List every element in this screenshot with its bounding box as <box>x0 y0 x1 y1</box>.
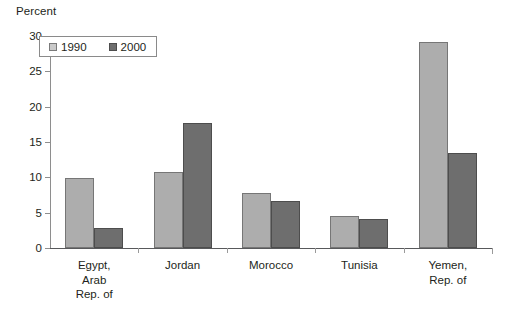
y-axis-tick <box>45 142 50 143</box>
y-axis-tick-label: 0 <box>36 242 42 254</box>
legend-swatch-icon-1990 <box>49 43 57 51</box>
bar-1990-yemen-rep-of <box>419 42 448 248</box>
legend-swatch-icon-2000 <box>109 43 117 51</box>
x-axis-tick <box>315 248 316 253</box>
bar-2000-jordan <box>183 123 212 248</box>
bar-2000-morocco <box>271 201 300 248</box>
x-axis-line <box>50 248 492 249</box>
x-axis-category-label: Morocco <box>227 258 315 273</box>
x-axis-tick <box>227 248 228 253</box>
y-axis-title: Percent <box>16 4 56 18</box>
y-axis-tick <box>45 177 50 178</box>
x-axis-category-label: Yemen, Rep. of <box>404 258 492 287</box>
y-axis-tick <box>45 248 50 249</box>
bar-2000-tunisia <box>359 219 388 248</box>
legend-label-2000: 2000 <box>121 41 147 53</box>
bar-1990-egypt-arab-rep-of <box>65 178 94 248</box>
bar-2000-yemen-rep-of <box>448 153 477 248</box>
x-axis-category-label: Tunisia <box>315 258 403 273</box>
plot-area: 051015202530 Egypt, Arab Rep. ofJordanMo… <box>50 36 492 248</box>
bar-chart: Percent 051015202530 Egypt, Arab Rep. of… <box>0 0 516 311</box>
y-axis-tick <box>45 107 50 108</box>
chart-legend: 1990 2000 <box>39 36 157 57</box>
bar-1990-morocco <box>242 193 271 248</box>
y-axis-tick-label: 20 <box>29 101 42 113</box>
x-axis-tick <box>492 248 493 254</box>
bar-2000-egypt-arab-rep-of <box>94 228 123 248</box>
y-axis-tick-label: 25 <box>29 65 42 77</box>
x-axis-tick <box>138 248 139 253</box>
legend-label-1990: 1990 <box>61 41 87 53</box>
bar-1990-jordan <box>154 172 183 248</box>
y-axis-tick-label: 10 <box>29 171 42 183</box>
x-axis-tick <box>404 248 405 253</box>
bar-1990-tunisia <box>330 216 359 249</box>
x-axis-category-label: Jordan <box>138 258 226 273</box>
y-axis-tick-label: 5 <box>36 207 42 219</box>
y-axis-line <box>50 36 51 248</box>
y-axis-tick <box>45 71 50 72</box>
legend-entry-1990: 1990 <box>49 41 87 53</box>
y-axis-tick-label: 15 <box>29 136 42 148</box>
legend-entry-2000: 2000 <box>109 41 147 53</box>
x-axis-category-label: Egypt, Arab Rep. of <box>50 258 138 302</box>
y-axis-tick <box>45 213 50 214</box>
